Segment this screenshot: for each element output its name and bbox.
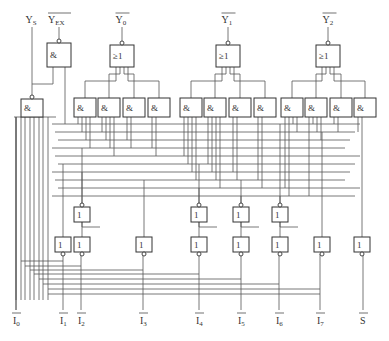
not-symbol: 1 xyxy=(194,210,199,220)
wire xyxy=(230,67,240,98)
inversion-bubble-icon xyxy=(80,203,84,207)
inversion-bubble-icon xyxy=(320,252,324,256)
mid-not-gate-1: 1 xyxy=(74,203,90,222)
and-gate-10: & xyxy=(305,98,327,117)
not-symbol: 1 xyxy=(58,240,63,250)
or-symbol: ≥1 xyxy=(219,51,228,61)
or-symbol: ≥1 xyxy=(113,51,122,61)
inversion-bubble-icon xyxy=(239,203,243,207)
wire xyxy=(109,67,120,98)
inversion-bubble-icon xyxy=(30,95,34,99)
and-gate-1: & xyxy=(74,98,96,117)
or-symbol: ≥1 xyxy=(319,51,328,61)
bottom-not-gate-i5: 1 xyxy=(233,237,249,256)
inversion-bubble-icon xyxy=(278,252,282,256)
inversion-bubble-icon xyxy=(61,252,65,256)
gate-y2-or: ≥1 xyxy=(316,41,340,67)
and-gate-12: & xyxy=(354,98,376,117)
bottom-not-gate-i4: 1 xyxy=(191,237,207,256)
gate-ex-and: & xyxy=(47,39,71,67)
and-gate-11: & xyxy=(330,98,352,117)
output-label-y0: Y0 xyxy=(116,14,127,27)
wire xyxy=(124,67,134,98)
and-symbol: & xyxy=(357,103,364,113)
inversion-bubble-icon xyxy=(326,41,330,45)
and-symbol: & xyxy=(50,50,57,60)
not-symbol: 1 xyxy=(275,210,280,220)
not-symbol: 1 xyxy=(77,240,82,250)
inversion-bubble-icon xyxy=(239,252,243,256)
inversion-bubble-icon xyxy=(226,41,230,45)
wire xyxy=(334,67,365,98)
gate-ys-and: & xyxy=(21,95,43,117)
wire xyxy=(85,67,116,98)
inversion-bubble-icon xyxy=(360,252,364,256)
and-gate-9: & xyxy=(281,98,303,117)
and-symbol: & xyxy=(257,103,264,113)
input-label-i5: I5 xyxy=(238,315,245,328)
not-symbol: 1 xyxy=(317,240,322,250)
output-label-ys: YS xyxy=(26,14,37,27)
bottom-not-gate-i7: 1 xyxy=(314,237,330,256)
inversion-bubble-icon xyxy=(278,203,282,207)
and-gate-6: & xyxy=(204,98,226,117)
mid-not-gate-2: 1 xyxy=(191,203,207,222)
wire xyxy=(316,67,326,98)
bottom-not-gate-i3: 1 xyxy=(136,237,152,256)
mid-not-gate-4: 1 xyxy=(272,203,288,222)
and-symbol: & xyxy=(151,103,158,113)
wire xyxy=(128,67,159,98)
and-symbol: & xyxy=(183,103,190,113)
inversion-bubble-icon xyxy=(142,252,146,256)
bottom-not-gate-i2: 1 xyxy=(74,237,90,256)
and-gate-3: & xyxy=(123,98,145,117)
and-symbol: & xyxy=(308,103,315,113)
not-symbol: 1 xyxy=(357,240,362,250)
and-symbol: & xyxy=(77,103,84,113)
input-label-i3: I3 xyxy=(140,315,147,328)
wire xyxy=(280,222,298,227)
not-symbol: 1 xyxy=(194,240,199,250)
and-symbol: & xyxy=(126,103,133,113)
and-gate-8: & xyxy=(254,98,276,117)
wire xyxy=(330,67,341,98)
output-label-y2: Y2 xyxy=(323,14,334,27)
not-symbol: 1 xyxy=(236,240,241,250)
not-symbol: 1 xyxy=(236,210,241,220)
mid-not-gate-3: 1 xyxy=(233,203,249,222)
and-symbol: & xyxy=(24,103,31,113)
bottom-not-gate-i6: 1 xyxy=(272,237,288,256)
gate-y1-or: ≥1 xyxy=(216,41,240,67)
wire xyxy=(32,67,53,84)
wire xyxy=(234,67,265,98)
input-label-i4: I4 xyxy=(196,315,203,328)
not-symbol: 1 xyxy=(275,240,280,250)
inversion-bubble-icon xyxy=(197,252,201,256)
inversion-bubble-icon xyxy=(80,252,84,256)
circuit-svg: &≥1≥1≥1&&&&&&&&&&&&&111111111111 YSYEXY0… xyxy=(0,0,389,341)
bottom-not-gate-i1: 1 xyxy=(55,237,71,256)
and-gate-4: & xyxy=(148,98,170,117)
wires xyxy=(14,27,365,310)
input-label-i7: I7 xyxy=(317,315,324,328)
input-label-i0: I0 xyxy=(13,315,20,328)
and-gate-2: & xyxy=(98,98,120,117)
bottom-not-gate-s: 1 xyxy=(354,237,370,256)
priority-encoder-diagram: &≥1≥1≥1&&&&&&&&&&&&&111111111111 YSYEXY0… xyxy=(0,0,389,341)
wire xyxy=(199,222,217,227)
and-gate-7: & xyxy=(229,98,251,117)
input-label-i6: I6 xyxy=(276,315,283,328)
and-symbol: & xyxy=(101,103,108,113)
output-label-yex: YEX xyxy=(48,14,65,27)
input-label-i2: I2 xyxy=(78,315,85,328)
wire xyxy=(82,222,100,227)
wire xyxy=(215,67,226,98)
and-symbol: & xyxy=(232,103,239,113)
wire xyxy=(292,67,322,98)
inversion-bubble-icon xyxy=(197,203,201,207)
not-symbol: 1 xyxy=(139,240,144,250)
wire xyxy=(241,222,259,227)
input-label-i1: I1 xyxy=(60,315,67,328)
and-symbol: & xyxy=(284,103,291,113)
inversion-bubble-icon xyxy=(57,39,61,43)
